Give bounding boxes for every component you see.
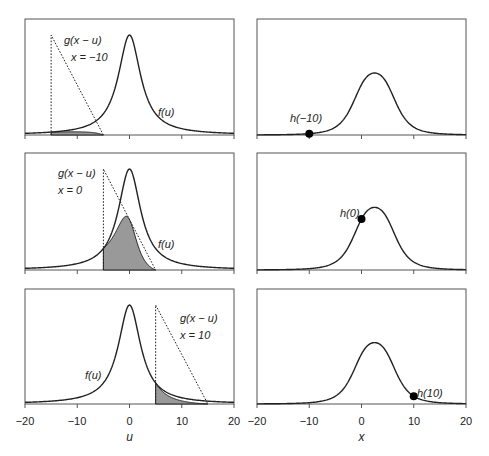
tick-left-n10: −10: [68, 415, 87, 427]
tick-right-0: 0: [358, 415, 364, 427]
f-label-top: f(u): [158, 106, 175, 118]
tick-left-n20: −20: [16, 415, 35, 427]
f-label-mid: f(u): [158, 238, 175, 250]
h-label-top: h(−10): [290, 112, 322, 124]
xlabel-left: u: [126, 430, 133, 444]
tick-left-0: 0: [126, 415, 132, 427]
h-label-bot: h(10): [417, 387, 443, 399]
f-curve: [25, 35, 234, 133]
x-label-top: x = −10: [70, 51, 109, 63]
g-triangle: [51, 35, 103, 135]
panel-frame: [25, 289, 234, 404]
x-label-bot: x = 10: [179, 329, 211, 341]
tick-left-20: 20: [228, 415, 240, 427]
h-label-mid: h(0): [340, 207, 360, 219]
x-label-mid: x = 0: [57, 184, 83, 196]
xlabel-right: x: [358, 430, 366, 444]
tick-left-10: 10: [176, 415, 188, 427]
f-label-bot: f(u): [85, 369, 102, 381]
tick-right-20: 20: [460, 415, 472, 427]
g-label-mid: g(x − u): [58, 167, 96, 179]
g-label-top: g(x − u): [64, 34, 102, 46]
panel-frame: [257, 153, 466, 270]
overlap-area: [103, 216, 155, 270]
tick-right-n10: −10: [300, 415, 319, 427]
tick-right-n20: −20: [248, 415, 267, 427]
panel-frame: [257, 19, 466, 135]
convolution-figure: g(x − u) x = −10 f(u) h(−10) g(x − u) x …: [0, 0, 489, 456]
panel-frame: [25, 19, 234, 135]
g-label-bot: g(x − u): [180, 312, 218, 324]
h-point-marker: [305, 130, 313, 138]
overlap-area: [51, 132, 103, 135]
h-curve: [257, 73, 466, 135]
tick-right-10: 10: [408, 415, 420, 427]
